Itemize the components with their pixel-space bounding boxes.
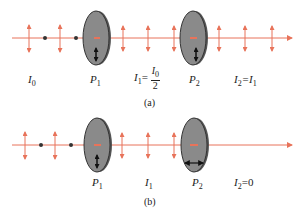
label-p2-a: P2 xyxy=(189,73,200,88)
label-p1-b: P1 xyxy=(92,176,103,191)
caption-b: (b) xyxy=(144,196,156,207)
label-i0-a: I0 xyxy=(28,73,36,88)
label-i2-a: I2=I1 xyxy=(234,73,257,88)
dot-icon xyxy=(39,143,43,147)
polarizer-p2-b xyxy=(181,118,209,172)
dot-icon xyxy=(43,36,47,40)
panel-b xyxy=(12,118,292,172)
panel-a xyxy=(12,11,292,65)
label-p2-b: P2 xyxy=(192,176,203,191)
label-i1-b: I1 xyxy=(145,176,153,191)
dot-icon xyxy=(74,36,78,40)
caption-a: (a) xyxy=(144,97,155,108)
label-i1-a: I1= I02 xyxy=(134,66,160,91)
polarizer-p1-a xyxy=(83,11,111,65)
fraction-i0-over-2: I02 xyxy=(151,66,160,91)
dot-icon xyxy=(69,143,73,147)
label-p1-a: P1 xyxy=(90,73,101,88)
polarizer-p2-a xyxy=(180,11,208,65)
label-i2-b: I2=0 xyxy=(234,176,253,191)
polarizer-p1-b xyxy=(84,118,112,172)
